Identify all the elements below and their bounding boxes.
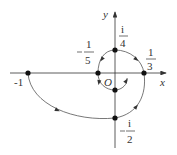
point-minus-one-fifth	[95, 70, 100, 75]
label-minus-one: -1	[14, 76, 23, 88]
x-axis-label: x	[159, 76, 165, 88]
path-arc-one-third-to-i-quarter	[115, 50, 144, 73]
fraction-numerator: 1	[148, 46, 154, 58]
origin-label: O	[104, 76, 112, 88]
point-one-third	[141, 70, 146, 75]
point-minus-i-half	[112, 115, 117, 120]
path-arc-minus-i-half-to-one-third	[115, 73, 145, 118]
fraction-denominator: 2	[127, 133, 133, 145]
y-axis-label: y	[102, 8, 108, 20]
fraction-denominator: 3	[147, 60, 153, 72]
fraction-numerator: i	[128, 117, 131, 129]
path-arc-i-quarter-to-minus-one-fifth	[98, 50, 115, 73]
fraction-denominator: 4	[120, 37, 126, 49]
direction-arrow-icon	[123, 77, 129, 83]
point-i-quarter	[112, 47, 117, 52]
fraction-numerator: i	[121, 23, 124, 35]
fraction-denominator: 5	[85, 54, 91, 66]
path-arc-minus1-to-minus-i-half	[28, 73, 115, 119]
label-one-third: 1 3	[146, 46, 156, 72]
fraction-numerator: 1	[86, 38, 92, 50]
direction-arrow-icon	[133, 56, 139, 62]
label-i-quarter: i 4	[119, 23, 128, 49]
label-minus-one-fifth: 1 5	[77, 38, 94, 66]
point-minus-one	[25, 70, 30, 75]
label-minus-i-half: i 2	[120, 117, 135, 145]
point-inner	[112, 87, 117, 92]
complex-plane-diagram: x y O -1 1 5 1 3 i 4	[0, 0, 177, 155]
